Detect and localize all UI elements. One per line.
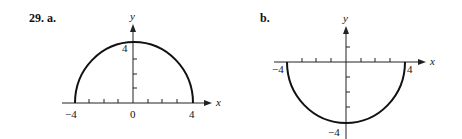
graph-a-y-top-label: 4 xyxy=(122,43,128,54)
graph-b-y-label: y xyxy=(343,13,348,24)
graph-a-y-arrow-icon xyxy=(130,24,136,32)
graph-b-x-max-label: 4 xyxy=(407,64,413,75)
graph-a-semicircle xyxy=(75,42,193,103)
graph-b-x-min-label: −4 xyxy=(272,64,284,75)
graph-a-x-min-label: −4 xyxy=(65,109,77,120)
graph-b-x-arrow-icon xyxy=(418,59,426,65)
graph-b-y-arrow-icon xyxy=(343,26,349,34)
graph-a-x-arrow-icon xyxy=(204,100,212,106)
graph-b-y-ticks xyxy=(346,47,350,107)
graph-b-y-bottom-label: −4 xyxy=(328,127,340,138)
graph-a-y-label: y xyxy=(130,11,135,22)
graph-a-origin-label: 0 xyxy=(130,109,136,120)
graph-b-x-label: x xyxy=(430,56,435,67)
graph-a-x-max-label: 4 xyxy=(189,109,195,120)
graph-a-y-ticks xyxy=(133,59,137,88)
graph-a-x-label: x xyxy=(216,97,221,108)
